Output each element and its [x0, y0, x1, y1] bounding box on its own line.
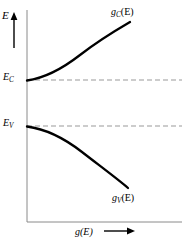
conduction-curve-label-arg: (E) [121, 6, 134, 17]
conduction-curve-label: gC(E) [111, 7, 134, 19]
valence-level-label: EV [3, 118, 14, 130]
energy-axis-arrow-icon [11, 12, 18, 48]
valence-band-dos-curve [27, 127, 128, 189]
valence-curve-label: gV(E) [112, 193, 134, 205]
y-axis-label: E [2, 10, 9, 21]
conduction-level-label-subscript: C [9, 76, 14, 84]
conduction-band-dos-curve [27, 22, 130, 81]
conduction-level-label: EC [3, 72, 14, 84]
valence-level-label-subscript: V [9, 122, 13, 130]
g-axis-arrow-icon [104, 228, 135, 235]
plot-canvas [0, 0, 184, 242]
density-of-states-figure: E EC EV gC(E) gV(E) g(E) [0, 0, 184, 242]
valence-curve-label-arg: (E) [121, 192, 134, 203]
x-axis-label: g(E) [75, 227, 93, 237]
